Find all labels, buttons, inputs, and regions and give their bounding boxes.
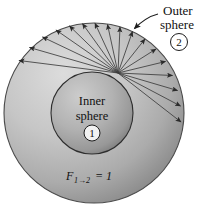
outer-sphere-badge-label: 2 xyxy=(176,36,182,48)
outer-sphere-label-line2: sphere xyxy=(160,17,194,32)
outer-sphere-badge: 2 xyxy=(171,34,188,51)
figure-container: Outer sphere 2 Inner sphere 1 F 1→2 = 1 xyxy=(0,0,200,215)
formula-equals: = 1 xyxy=(95,169,112,183)
formula-subscript: 1→2 xyxy=(74,176,90,185)
formula-symbol: F xyxy=(65,169,74,183)
outer-sphere-label-line1: Outer xyxy=(163,3,193,18)
inner-sphere-badge: 1 xyxy=(84,125,100,141)
inner-sphere-label-line1: Inner xyxy=(79,94,106,108)
outer-sphere-leader-line xyxy=(135,14,159,29)
sphere-view-factor-diagram: Outer sphere 2 Inner sphere 1 F 1→2 = 1 xyxy=(0,0,200,215)
inner-sphere-label-line2: sphere xyxy=(76,109,109,123)
inner-sphere-badge-label: 1 xyxy=(89,127,95,139)
